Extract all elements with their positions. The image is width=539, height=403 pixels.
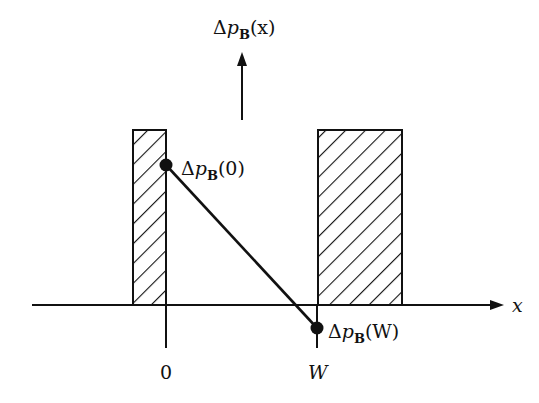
left-shaded-region [133, 130, 166, 305]
diagram-canvas: ΔpB(x) ΔpB(0) ΔpB(W) x 0 W [0, 0, 539, 403]
point-W-dot [311, 322, 324, 335]
point-W-label: ΔpB(W) [328, 320, 399, 346]
y-axis-arrowhead-icon [237, 52, 247, 66]
x-axis [32, 300, 504, 310]
y-axis-label: ΔpB(x) [213, 16, 275, 42]
point-0-label: ΔpB(0) [181, 157, 245, 183]
concentration-profile-line [166, 165, 317, 328]
tick-label-W: W [308, 361, 329, 383]
tick-label-0: 0 [160, 361, 172, 383]
point-0-dot [160, 159, 173, 172]
right-shaded-region [318, 130, 402, 305]
x-axis-label: x [512, 294, 523, 316]
x-axis-arrow-icon [490, 300, 504, 310]
y-axis-arrow [237, 52, 247, 120]
